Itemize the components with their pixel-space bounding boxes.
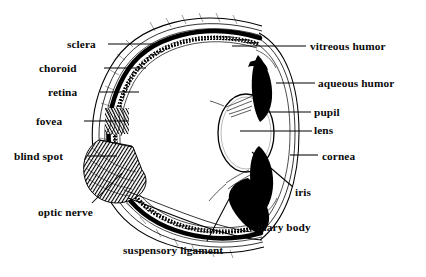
label-choroid: choroid [39,62,77,74]
label-aqueous-humor: aqueous humor [318,77,394,89]
label-lens: lens [314,124,333,136]
label-blind-spot: blind spot [14,150,63,162]
label-suspensory-ligament: suspensory ligament [123,244,223,256]
optic-nerve-stalk [84,140,146,203]
eye-anatomy-diagram: sclera choroid retina fovea blind spot o… [0,0,426,277]
label-cornea: cornea [322,150,355,162]
leader-suspensory [207,199,229,241]
label-retina: retina [48,86,77,98]
label-optic-nerve: optic nerve [38,206,93,218]
label-pupil: pupil [314,106,340,118]
label-fovea: fovea [36,115,62,127]
label-ciliary-body: ciliary body [252,221,311,233]
label-iris: iris [295,186,311,198]
label-sclera: sclera [67,38,96,50]
label-vitreous-humor: vitreous humor [310,40,386,52]
